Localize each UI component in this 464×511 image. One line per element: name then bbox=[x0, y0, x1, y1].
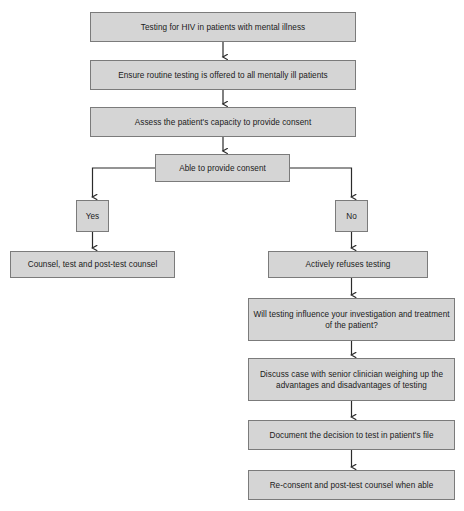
node-discuss-senior: Discuss case with senior clinician weigh… bbox=[248, 358, 455, 401]
node-ensure-routine: Ensure routine testing is offered to all… bbox=[90, 60, 356, 90]
connector-decision-to-yes bbox=[93, 168, 156, 197]
node-able-to-consent: Able to provide consent bbox=[155, 154, 290, 182]
node-assess-capacity: Assess the patient's capacity to provide… bbox=[90, 107, 356, 137]
node-re-consent: Re-consent and post-test counsel when ab… bbox=[248, 470, 455, 500]
node-assess-capacity-label: Assess the patient's capacity to provide… bbox=[94, 117, 352, 128]
node-document-decision-label: Document the decision to test in patient… bbox=[252, 430, 451, 441]
node-discuss-senior-label: Discuss case with senior clinician weigh… bbox=[252, 369, 451, 391]
node-actively-refuses-label: Actively refuses testing bbox=[272, 259, 424, 270]
node-will-testing-influence: Will testing influence your investigatio… bbox=[248, 298, 455, 341]
node-able-to-consent-label: Able to provide consent bbox=[159, 163, 286, 174]
node-yes: Yes bbox=[76, 200, 109, 232]
node-actively-refuses: Actively refuses testing bbox=[268, 251, 428, 278]
flowchart: Testing for HIV in patients with mental … bbox=[0, 0, 464, 511]
node-will-testing-influence-label: Will testing influence your investigatio… bbox=[252, 309, 451, 331]
node-no: No bbox=[335, 200, 368, 232]
node-no-label: No bbox=[339, 211, 364, 222]
node-ensure-routine-label: Ensure routine testing is offered to all… bbox=[94, 70, 352, 81]
node-counsel-test-label: Counsel, test and post-test counsel bbox=[14, 259, 171, 270]
node-re-consent-label: Re-consent and post-test counsel when ab… bbox=[252, 480, 451, 491]
connector-decision-to-no bbox=[290, 168, 352, 197]
node-counsel-test: Counsel, test and post-test counsel bbox=[10, 251, 175, 278]
node-document-decision: Document the decision to test in patient… bbox=[248, 420, 455, 450]
node-start-label: Testing for HIV in patients with mental … bbox=[94, 22, 352, 33]
node-yes-label: Yes bbox=[80, 211, 105, 222]
node-start: Testing for HIV in patients with mental … bbox=[90, 12, 356, 42]
